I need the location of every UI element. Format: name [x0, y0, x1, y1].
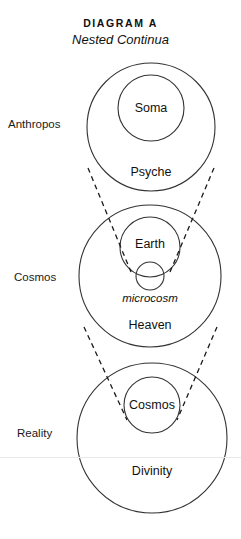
- cosmos-outer-label: Heaven: [128, 318, 171, 332]
- circles-layer: [77, 63, 227, 513]
- diagram-page: DIAGRAM A Nested Continua AnthroposCosmo…: [0, 0, 241, 539]
- connector-anthropos-to-cosmos-right: [170, 168, 214, 272]
- reality-outer-label: Divinity: [132, 464, 172, 478]
- anthropos-outer-label: Psyche: [131, 165, 172, 179]
- nested-continua-figure: [0, 0, 241, 539]
- cosmos-microcosm-label: microcosm: [122, 291, 178, 305]
- connector-anthropos-to-cosmos-left: [88, 168, 131, 272]
- connector-cosmos-to-reality-right: [177, 327, 217, 420]
- reality-outer-circle: [77, 363, 227, 513]
- cosmos-microcosm-circle: [136, 262, 164, 290]
- anthropos-inner-label: Soma: [135, 101, 168, 115]
- row-label-anthropos: Anthropos: [8, 118, 60, 131]
- row-label-cosmos: Cosmos: [14, 271, 56, 284]
- reality-inner-label: Cosmos: [129, 398, 175, 412]
- cosmos-inner-label: Earth: [135, 237, 165, 251]
- page-rule: [0, 457, 241, 458]
- row-label-reality: Reality: [17, 427, 52, 440]
